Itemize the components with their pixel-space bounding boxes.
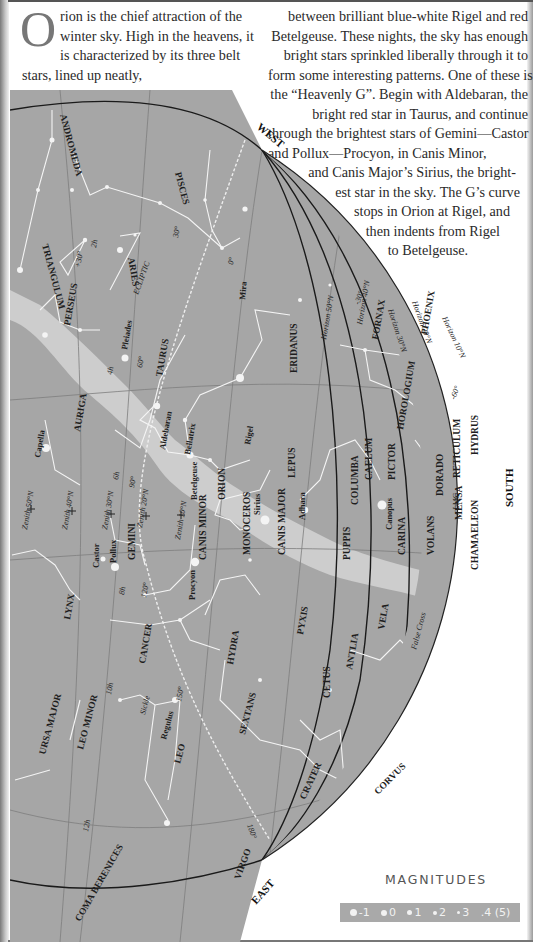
label-ra-2h: 2h [89, 239, 99, 248]
star-dot-icon [433, 911, 437, 915]
magnitudes-title: MAGNITUDES [385, 872, 487, 887]
label-eridanus: ERIDANUS [289, 323, 299, 373]
label-monoceros: MONOCEROS [242, 492, 252, 555]
magnitude-2: 2 [433, 906, 446, 919]
label-cetus: CETUS [322, 666, 332, 698]
label-chamaeleon: CHAMAELEON [470, 500, 480, 570]
label-ra-4h: 4h [105, 366, 115, 375]
label-sirius: Sirius [252, 493, 262, 515]
star-dot-icon [381, 910, 387, 916]
label-puppis: PUPPIS [342, 527, 352, 560]
label-volans: VOLANS [426, 516, 436, 555]
label-orion: ORION [217, 468, 227, 500]
magnitude-0: 0 [381, 906, 396, 919]
star-dot-icon [407, 910, 412, 915]
label-horizon-10: Horizon 10°N [440, 314, 468, 360]
label-corvus: CORVUS [372, 761, 407, 796]
magnitude-1: 1 [407, 906, 421, 919]
label-procyon: Procyon [187, 570, 197, 600]
magnitude-3: 3 [457, 906, 469, 919]
label-ra-8h: 8h [117, 586, 127, 595]
star-chart-page: O rion is the chief attraction of the wi… [0, 0, 533, 942]
label-canis-major: CANIS MAJOR [277, 488, 287, 555]
label-castor: Castor [91, 543, 101, 568]
label-lepus: LEPUS [287, 447, 297, 478]
magnitude-4-5: .4 (5) [481, 906, 511, 919]
magnitude-minus1: -1 [350, 906, 370, 919]
label-lmc: LMC [452, 493, 461, 511]
label-dorado: DORADO [435, 454, 445, 496]
label-pollux: Pollux [108, 539, 118, 563]
label-carina: CARINA [397, 517, 407, 555]
label-adhara: Adhara [297, 491, 307, 520]
label-canopus: Canopus [384, 497, 394, 530]
star-dot-icon [350, 909, 357, 916]
label-columba: COLUMBA [350, 455, 360, 505]
label-reticulum: RETICULUM [452, 419, 462, 478]
label-caelum: CAELUM [364, 438, 374, 480]
star-dot-icon [457, 911, 460, 914]
label-mira: Mira [237, 280, 249, 300]
label-hydrus: HYDRUS [470, 415, 480, 455]
label-ra-6h: 6h [111, 471, 121, 480]
label-pictor: PICTOR [387, 443, 397, 480]
label-dec-minus60: -60° [448, 384, 461, 401]
label-betelgeuse: Betelgeuse [189, 462, 199, 500]
label-gemini: GEMINI [127, 523, 137, 560]
magnitudes-legend: -1 0 1 2 3 .4 (5) [340, 903, 520, 922]
direction-south: SOUTH [503, 468, 515, 507]
label-canis-minor: CANIS MINOR [198, 494, 208, 560]
sky-map: WEST EAST SOUTH ANDROMEDA PISCES CETUS T… [0, 0, 533, 942]
